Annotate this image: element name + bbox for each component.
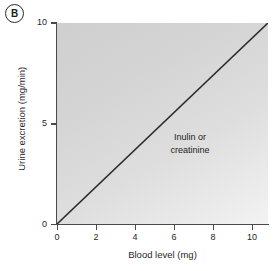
y-tick-mark-10 <box>51 22 56 23</box>
x-tick-mark-10 <box>252 225 253 230</box>
curve-annotation-line-1: Inulin or <box>150 131 230 144</box>
series-line-inulin-or-creatinine <box>57 23 268 224</box>
x-tick-mark-8 <box>213 225 214 230</box>
figure-panel: B 10 5 0 0 2 4 6 8 10 Urine excretion (m… <box>0 0 273 271</box>
x-tick-mark-2 <box>96 225 97 230</box>
curve-annotation: Inulin or creatinine <box>150 131 230 157</box>
x-axis-title: Blood level (mg) <box>57 250 268 260</box>
panel-label-text: B <box>11 9 18 19</box>
y-tick-label-10: 10 <box>21 18 47 27</box>
data-line-svg <box>57 23 268 224</box>
x-tick-label-4: 4 <box>123 233 147 242</box>
x-tick-mark-0 <box>57 225 58 230</box>
y-tick-mark-5 <box>51 123 56 124</box>
y-tick-mark-0 <box>51 224 56 225</box>
x-tick-label-6: 6 <box>162 233 186 242</box>
x-tick-label-2: 2 <box>84 233 108 242</box>
y-axis-line <box>56 22 57 225</box>
curve-annotation-line-2: creatinine <box>150 144 230 157</box>
x-tick-label-8: 8 <box>201 233 225 242</box>
y-axis-title: Urine excretion (mg/min) <box>17 34 27 204</box>
x-tick-mark-4 <box>135 225 136 230</box>
x-tick-mark-6 <box>174 225 175 230</box>
plot-area <box>57 23 268 224</box>
x-tick-label-0: 0 <box>45 233 69 242</box>
x-tick-label-10: 10 <box>240 233 264 242</box>
y-tick-label-0: 0 <box>21 220 47 229</box>
x-axis-line <box>56 224 269 225</box>
